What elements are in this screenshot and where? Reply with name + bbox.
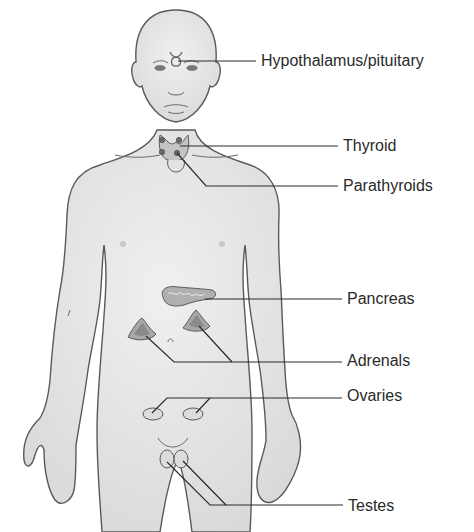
ovary-left [143, 408, 163, 420]
testis-left [160, 450, 174, 468]
label-pancreas: Pancreas [347, 291, 415, 307]
parathyroid [159, 137, 164, 142]
label-testes: Testes [348, 498, 394, 514]
label-adrenals: Adrenals [347, 353, 410, 369]
label-ovaries: Ovaries [347, 388, 402, 404]
body-illustration [0, 0, 474, 532]
ovary-right [183, 408, 203, 420]
label-hypothalamus-pituitary: Hypothalamus/pituitary [261, 53, 424, 69]
label-thyroid: Thyroid [343, 138, 396, 154]
endocrine-diagram: Hypothalamus/pituitary Thyroid Parathyro… [0, 0, 474, 532]
testis-right [174, 450, 188, 468]
label-parathyroids: Parathyroids [343, 178, 433, 194]
